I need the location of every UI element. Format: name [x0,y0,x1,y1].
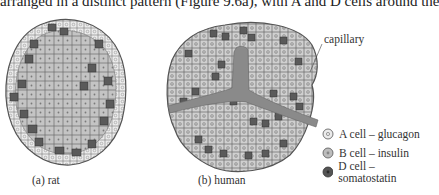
legend: A cell – glucagon B cell – insulin D cel… [322,124,430,181]
legend-label-a-cell: A cell – glucagon [339,128,420,140]
rat-islet [6,19,126,165]
legend-label-d-cell: D cell – somatostatin [338,160,430,184]
human-islet [167,22,322,171]
caption-human: (b) human [198,174,246,186]
d-cell-icon [322,166,333,178]
capillary-label: capillary [324,33,364,45]
legend-label-b-cell: B cell – insulin [339,147,409,159]
b-cell-icon [322,147,334,159]
legend-item-a-cell: A cell – glucagon [322,124,430,143]
legend-item-d-cell: D cell – somatostatin [322,162,430,181]
caption-rat: (a) rat [32,174,60,186]
a-cell-icon [322,128,334,140]
